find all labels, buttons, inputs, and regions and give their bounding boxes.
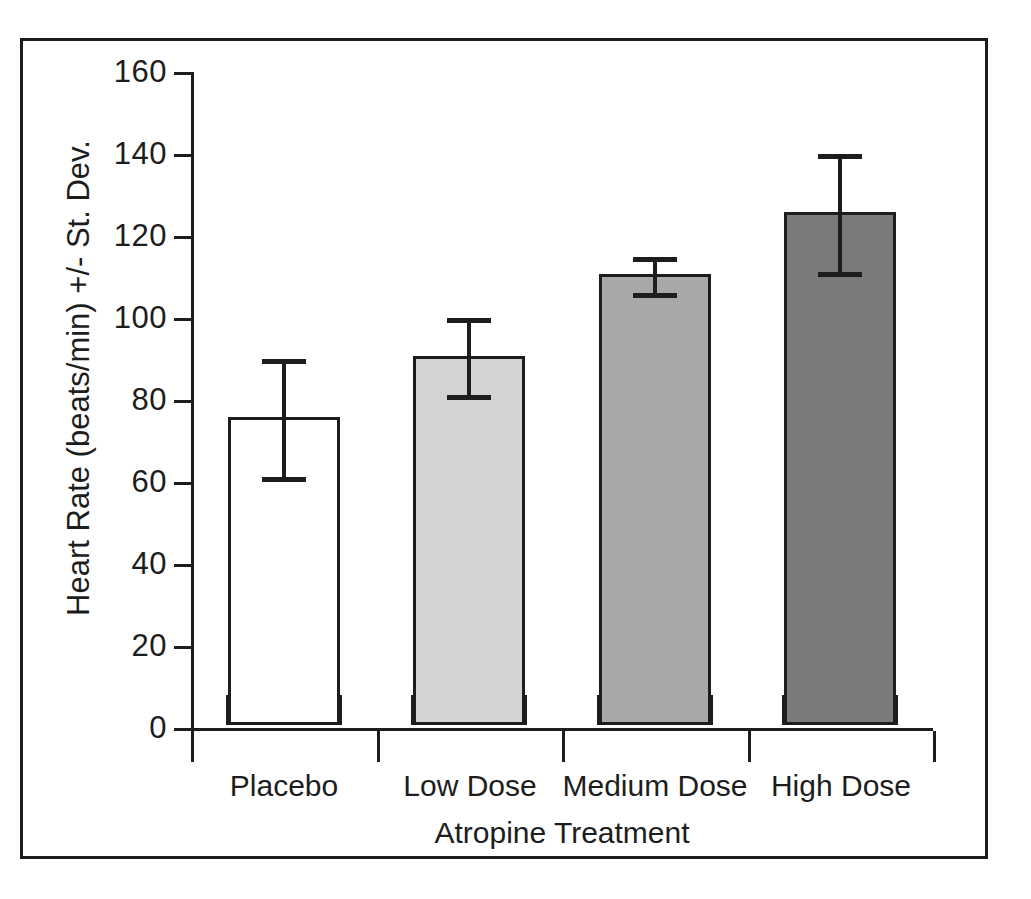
y-axis-tick [174,646,191,649]
x-axis-category-label: High Dose [748,769,934,803]
y-axis-tick [174,154,191,157]
figure-frame: Heart Rate (beats/min) +/- St. Dev. 0204… [20,38,988,859]
y-axis-tick-label: 80 [47,384,167,415]
y-axis-tick-label: 60 [47,466,167,497]
error-bar-cap-bottom [447,395,491,400]
bar[interactable] [413,356,525,725]
y-axis-tick-label: 120 [47,220,167,251]
error-bar [439,318,499,400]
x-axis-minor-tick [525,695,527,725]
x-axis-title: Atropine Treatment [191,816,933,850]
error-bar-cap-bottom [262,477,306,482]
y-axis-tick [174,482,191,485]
error-bar-stem [838,154,842,277]
y-axis-tick-label: 40 [47,548,167,579]
y-axis-tick-label: 0 [47,712,167,743]
x-axis-tick [748,731,751,762]
x-axis-minor-tick [896,695,898,725]
error-bar-stem [282,359,286,482]
error-bar-cap-bottom [633,293,677,298]
x-axis-category-label: Low Dose [377,769,563,803]
x-axis-minor-tick [226,695,228,725]
y-axis-tick [174,728,191,731]
y-axis-tick-label: 140 [47,138,167,169]
x-axis-minor-tick [340,695,342,725]
x-axis-minor-tick [411,695,413,725]
error-bar-cap-bottom [818,272,862,277]
error-bar-cap-top [633,257,677,262]
error-bar-stem [467,318,471,400]
x-axis-minor-tick [782,695,784,725]
y-axis-tick-label: 160 [47,56,167,87]
y-axis-tick [174,72,191,75]
y-axis-tick [174,318,191,321]
y-axis-tick [174,400,191,403]
x-axis-tick [562,731,565,762]
error-bar [254,359,314,482]
x-axis-tick [377,731,380,762]
y-axis-tick [174,236,191,239]
x-axis-tick [933,731,936,762]
error-bar-cap-top [447,318,491,323]
x-axis-minor-tick [711,695,713,725]
error-bar [810,154,870,277]
y-axis-tick-label: 100 [47,302,167,333]
x-axis-tick [191,731,194,762]
bar[interactable] [784,212,896,725]
y-axis-line [191,72,194,731]
plot-area: 020406080100120140160 PlaceboLow DoseMed… [191,72,933,728]
y-axis-tick [174,564,191,567]
bar[interactable] [599,274,711,725]
y-axis-tick-label: 20 [47,630,167,661]
x-axis-minor-tick [597,695,599,725]
error-bar-cap-top [818,154,862,159]
error-bar-stem [653,257,657,298]
x-axis-category-label: Medium Dose [562,769,748,803]
x-axis-category-label: Placebo [191,769,377,803]
error-bar [625,257,685,298]
error-bar-cap-top [262,359,306,364]
